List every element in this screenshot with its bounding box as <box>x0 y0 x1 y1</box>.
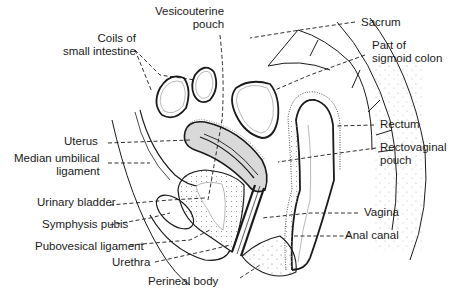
label-sacrum: Sacrum <box>361 16 401 29</box>
label-sigmoid-line1: Part of <box>372 39 442 52</box>
sigmoid-colon <box>232 82 278 138</box>
label-median-umbilical-line2: ligament <box>14 165 100 178</box>
label-pubovesical-ligament: Pubovesical ligament <box>35 240 144 253</box>
label-median-umbilical-ligament: Median umbilical ligament <box>14 152 100 178</box>
label-perineal-body: Perineal body <box>148 275 218 288</box>
anatomy-diagram: Coils of small intestine Vesicouterine p… <box>0 0 456 291</box>
label-uterus: Uterus <box>64 135 98 148</box>
label-sigmoid-colon: Part of sigmoid colon <box>372 39 442 65</box>
label-urinary-bladder: Urinary bladder <box>37 196 116 209</box>
label-coils-small-intestine: Coils of small intestine <box>63 32 136 58</box>
label-rectovaginal-line1: Rectovaginal <box>380 141 446 154</box>
label-vesicouterine-line1: Vesicouterine <box>155 5 224 18</box>
label-symphysis-pubis: Symphysis pubis <box>42 218 128 231</box>
label-vagina: Vagina <box>364 206 399 219</box>
label-median-umbilical-line1: Median umbilical <box>14 152 100 165</box>
label-rectovaginal-pouch: Rectovaginal pouch <box>380 141 446 167</box>
label-anal-canal: Anal canal <box>345 229 399 242</box>
label-rectovaginal-line2: pouch <box>380 154 446 167</box>
label-sigmoid-line2: sigmoid colon <box>372 52 442 65</box>
label-urethra: Urethra <box>112 256 150 269</box>
label-rectum: Rectum <box>380 118 420 131</box>
small-intestine-coils <box>156 68 216 118</box>
urinary-bladder-shape <box>178 170 244 252</box>
label-vesicouterine-pouch: Vesicouterine pouch <box>155 5 224 31</box>
label-coils-line1: Coils of <box>63 32 136 45</box>
label-coils-line2: small intestine <box>63 45 136 58</box>
label-vesicouterine-line2: pouch <box>155 18 224 31</box>
